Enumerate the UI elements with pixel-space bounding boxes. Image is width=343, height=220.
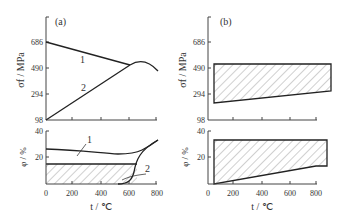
panel-label: (b) — [220, 16, 232, 28]
curve-merged — [130, 62, 158, 71]
curve-label-2: 2 — [81, 82, 86, 93]
y-tick-labels: 40 20 — [197, 127, 205, 162]
x-tick-label: 600 — [123, 189, 135, 198]
hatched-band — [46, 164, 137, 184]
x-tick-label: 0 — [44, 189, 48, 198]
curve-2 — [46, 65, 130, 120]
curve-1 — [46, 140, 158, 154]
y-tick-label: 20 — [35, 153, 43, 162]
y-tick-label: 294 — [31, 90, 43, 99]
x-tick-labels: 0 200 400 600 800 — [206, 189, 322, 198]
panel-a-bottom: 40 20 0 200 400 600 800 φ / % t / ℃ 1 2 — [18, 127, 163, 212]
y-tick-label: 686 — [193, 38, 205, 47]
y-axis-label: σf / MPa — [177, 52, 188, 88]
y-tick-label: 294 — [193, 90, 205, 99]
x-tick-label: 800 — [151, 189, 163, 198]
x-tick-label: 400 — [95, 189, 107, 198]
hatched-region — [214, 64, 331, 103]
curve-label-1: 1 — [87, 134, 92, 145]
y-tick-label: 686 — [31, 38, 43, 47]
x-tick-label: 200 — [227, 189, 239, 198]
x-tick-label: 600 — [284, 189, 296, 198]
curve-label-1: 1 — [80, 54, 85, 65]
x-tick-labels: 0 200 400 600 800 — [44, 189, 163, 198]
y-axis-label: φ / % — [18, 147, 28, 167]
y-tick-labels: 686 490 294 98 — [193, 38, 205, 125]
x-axis-label: t / ℃ — [251, 201, 273, 212]
y-tick-labels: 686 490 294 98 — [31, 38, 43, 125]
panel-b-bottom: 40 20 0 200 400 600 800 φ / % t / ℃ — [180, 127, 327, 212]
y-tick-label: 490 — [31, 64, 43, 73]
y-tick-labels: 40 20 — [35, 127, 43, 162]
panel-b-top: 686 490 294 98 σf / MPa (b) — [177, 16, 331, 125]
y-tick-label: 98 — [35, 116, 43, 125]
x-axis-label: t / ℃ — [90, 201, 112, 212]
hatched-region — [214, 140, 327, 184]
x-tick-label: 200 — [66, 189, 78, 198]
curve-label-2: 2 — [145, 163, 150, 174]
x-tick-label: 800 — [310, 189, 322, 198]
panel-label: (a) — [55, 16, 66, 28]
y-tick-label: 40 — [197, 127, 205, 136]
panel-a-top: 686 490 294 98 σf / MPa (a) 1 2 — [15, 16, 158, 125]
y-axis-label: φ / % — [180, 147, 190, 167]
y-tick-label: 98 — [197, 116, 205, 125]
x-tick-label: 0 — [206, 189, 210, 198]
x-tick-label: 400 — [256, 189, 268, 198]
y-tick-label: 40 — [35, 127, 43, 136]
y-axis-label: σf / MPa — [15, 52, 26, 88]
y-tick-label: 490 — [193, 64, 205, 73]
curve-1 — [46, 42, 130, 65]
leader-1 — [77, 144, 86, 156]
y-tick-label: 20 — [197, 153, 205, 162]
figure: 686 490 294 98 σf / MPa (a) 1 2 40 20 0 — [0, 0, 343, 220]
chart-svg: 686 490 294 98 σf / MPa (a) 1 2 40 20 0 — [0, 0, 343, 220]
y-axis — [46, 17, 157, 120]
